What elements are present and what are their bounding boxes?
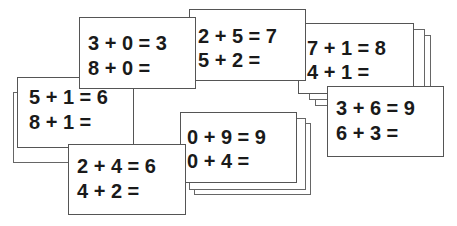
- equation-solved: 5 + 1 = 6: [29, 86, 108, 108]
- equation-solved: 3 + 0 = 3: [88, 32, 167, 54]
- equation-solved: 7 + 1 = 8: [307, 37, 386, 59]
- equation-solved: 2 + 4 = 6: [77, 155, 156, 177]
- equation-problem: 8 + 0 =: [88, 57, 150, 79]
- equation-solved: 2 + 5 = 7: [198, 25, 277, 47]
- equation-problem: 8 + 1 =: [29, 111, 91, 133]
- equation-problem: 5 + 2 =: [198, 49, 260, 71]
- equation-problem: 4 + 1 =: [307, 61, 369, 83]
- flash-card-0-9: 0 + 9 = 9 0 + 4 =: [180, 112, 297, 183]
- flash-card-2-5: 2 + 5 = 7 5 + 2 =: [189, 9, 306, 81]
- flash-card-3-0: 3 + 0 = 3 8 + 0 =: [79, 17, 196, 89]
- equation-problem: 6 + 3 =: [336, 122, 398, 144]
- equation-problem: 4 + 2 =: [77, 180, 139, 202]
- equation-problem: 0 + 4 =: [187, 150, 249, 172]
- equation-solved: 0 + 9 = 9: [187, 126, 266, 148]
- equation-solved: 3 + 6 = 9: [336, 97, 415, 119]
- flash-card-7-1: 7 + 1 = 8 4 + 1 =: [298, 23, 414, 94]
- flash-card-3-6: 3 + 6 = 9 6 + 3 =: [327, 86, 444, 157]
- flash-card-2-4: 2 + 4 = 6 4 + 2 =: [68, 144, 186, 215]
